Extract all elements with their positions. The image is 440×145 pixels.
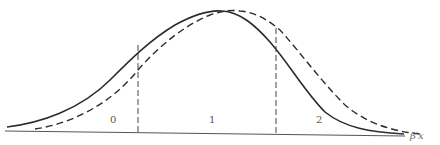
dashed-density-curve — [35, 10, 420, 134]
region-label-0: 0 — [110, 114, 116, 125]
density-diagram — [0, 0, 440, 145]
region-label-2: 2 — [316, 114, 322, 125]
solid-density-curve — [7, 11, 404, 134]
region-label-1: 1 — [209, 114, 215, 125]
axis-label: β′x — [410, 130, 424, 141]
baseline-axis — [5, 131, 405, 136]
